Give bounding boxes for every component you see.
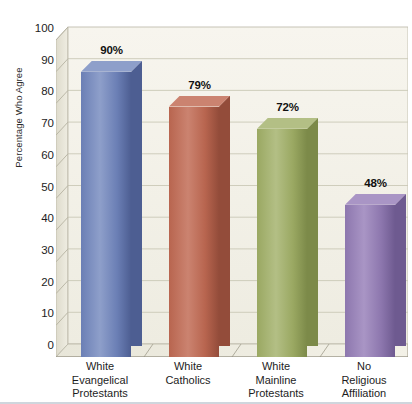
category-label-line: Mainline: [232, 374, 320, 388]
category-label-line: Affiliation: [320, 387, 408, 401]
bar-3-front-face: [257, 129, 307, 357]
y-axis-tick-100: 100: [16, 22, 54, 34]
bar-1-value-label: 90%: [77, 44, 147, 56]
category-label-line: White: [144, 360, 232, 374]
plot-area: 90%79%72%48%: [56, 12, 408, 357]
category-label-line: White: [232, 360, 320, 374]
y-axis-tick-labels: 1009080706050403020100: [16, 0, 54, 404]
category-label-line: Catholics: [144, 374, 232, 388]
category-label-line: Protestants: [56, 387, 144, 401]
category-label-1: WhiteEvangelicalProtestants: [56, 360, 144, 404]
bar-3-value-label: 72%: [253, 101, 323, 113]
bar-4-value-label: 48%: [341, 177, 411, 189]
category-label-line: White: [56, 360, 144, 374]
bar-1-side-face: [131, 61, 142, 346]
category-label-line: Evangelical: [56, 374, 144, 388]
y-axis-tick-10: 10: [16, 307, 54, 319]
bar-3-side-face: [307, 118, 318, 346]
bar-4-front-face: [345, 205, 395, 357]
y-axis-tick-0: 0: [16, 339, 54, 351]
y-axis-tick-50: 50: [16, 181, 54, 193]
bar-2-value-label: 79%: [165, 79, 235, 91]
category-label-4: NoReligiousAffiliation: [320, 360, 408, 404]
x-axis-category-labels: WhiteEvangelicalProtestantsWhiteCatholic…: [56, 360, 408, 404]
category-label-line: No: [320, 360, 408, 374]
y-axis-tick-20: 20: [16, 276, 54, 288]
bars-layer: 90%79%72%48%: [56, 12, 408, 357]
bar-2-side-face: [219, 96, 230, 346]
bar-1[interactable]: [81, 12, 131, 357]
bar-chart-figure: Percentage Who Agree 1009080706050403020…: [0, 0, 412, 404]
bar-2-front-face: [169, 107, 219, 357]
bar-4-side-face: [395, 194, 406, 346]
y-axis-tick-30: 30: [16, 244, 54, 256]
y-axis-tick-40: 40: [16, 212, 54, 224]
y-axis-tick-70: 70: [16, 117, 54, 129]
y-axis-tick-60: 60: [16, 149, 54, 161]
y-axis-tick-80: 80: [16, 85, 54, 97]
bar-3[interactable]: [257, 12, 307, 357]
y-axis-tick-90: 90: [16, 54, 54, 66]
category-label-3: WhiteMainlineProtestants: [232, 360, 320, 404]
category-label-line: Religious: [320, 374, 408, 388]
category-label-2: WhiteCatholics: [144, 360, 232, 404]
category-label-line: Protestants: [232, 387, 320, 401]
bar-1-front-face: [81, 72, 131, 357]
bar-2[interactable]: [169, 12, 219, 357]
